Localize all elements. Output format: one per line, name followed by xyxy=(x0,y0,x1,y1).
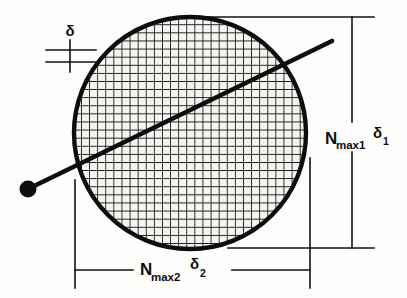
horizontal-dimension-symbol: δ xyxy=(190,255,199,272)
vertical-dimension-label: N max1 δ 1 xyxy=(325,124,389,151)
horizontal-dimension-base-subscript: max2 xyxy=(151,271,180,283)
technical-diagram-figure: δ N max1 δ 1 N max2 δ 2 xyxy=(0,0,407,298)
delta-spacing-label: δ xyxy=(65,22,74,39)
vertical-dimension-symbol-subscript: 1 xyxy=(383,135,389,147)
meshed-disc-group xyxy=(70,13,312,255)
horizontal-dimension-label: N max2 δ 2 xyxy=(140,255,206,283)
vertical-dimension-base-subscript: max1 xyxy=(336,139,366,151)
horizontal-dimension-symbol-subscript: 2 xyxy=(200,267,206,279)
diagram-canvas: δ N max1 δ 1 N max2 δ 2 xyxy=(0,0,407,298)
vertical-dimension-symbol: δ xyxy=(373,124,382,141)
disc-mesh xyxy=(70,13,312,255)
ray-origin-dot xyxy=(20,181,37,198)
